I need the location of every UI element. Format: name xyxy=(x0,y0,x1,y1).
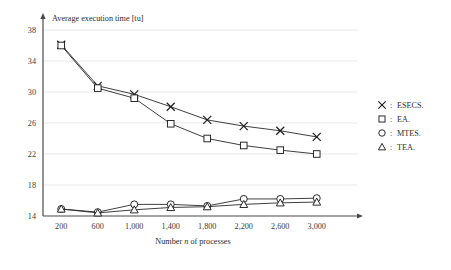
x-tick-label: 2,600 xyxy=(271,222,289,231)
x-tick-label: 1,400 xyxy=(162,222,180,231)
legend-label: ESECS. xyxy=(397,101,424,110)
square-marker-icon xyxy=(240,142,247,149)
y-tick-label: 14 xyxy=(28,212,36,221)
x-tick-label: 1,800 xyxy=(198,222,216,231)
square-marker-icon xyxy=(58,42,65,49)
square-marker-icon xyxy=(379,116,385,122)
legend-separator: : xyxy=(390,101,392,110)
legend-separator: : xyxy=(390,115,392,124)
y-tick-label: 26 xyxy=(28,119,36,128)
x-axis-title: Number n of processes xyxy=(155,237,230,246)
x-tick-label: 2,200 xyxy=(235,222,253,231)
y-tick-label: 38 xyxy=(28,26,36,35)
legend-item-mtes[interactable]: :MTES. xyxy=(379,129,421,138)
legend-label: EA. xyxy=(397,115,410,124)
axes xyxy=(40,13,363,219)
y-axis-title: Average execution time [tu] xyxy=(52,14,144,23)
x-tick-label: 1,000 xyxy=(125,222,143,231)
triangle-marker-icon xyxy=(378,143,385,149)
x-axis-ticks: 2006001,0001,4001,8002,2002,6003,000 xyxy=(55,222,326,231)
y-tick-label: 34 xyxy=(28,57,36,66)
square-marker-icon xyxy=(94,85,101,92)
x-marker-icon xyxy=(378,101,385,108)
legend-item-tea[interactable]: :TEA. xyxy=(378,143,415,152)
chart-container: 383430262218142006001,0001,4001,8002,200… xyxy=(0,0,451,270)
y-axis-arrow xyxy=(40,13,45,19)
square-marker-icon xyxy=(131,95,138,102)
square-marker-icon xyxy=(167,120,174,127)
gridlines xyxy=(43,30,357,185)
legend-item-ea[interactable]: :EA. xyxy=(379,115,410,124)
square-marker-icon xyxy=(313,151,320,158)
circle-marker-icon xyxy=(379,130,385,136)
x-marker-icon xyxy=(313,133,321,141)
line-chart: 383430262218142006001,0001,4001,8002,200… xyxy=(0,0,451,270)
series-tea xyxy=(57,198,320,216)
y-tick-label: 18 xyxy=(28,181,36,190)
x-tick-label: 3,000 xyxy=(308,222,326,231)
x-tick-label: 600 xyxy=(92,222,104,231)
legend-item-esecs[interactable]: :ESECS. xyxy=(378,101,423,110)
legend-label: TEA. xyxy=(397,143,415,152)
series-ea xyxy=(58,42,320,157)
series-line xyxy=(61,46,317,155)
y-tick-label: 22 xyxy=(28,150,36,159)
x-marker-icon xyxy=(167,103,175,111)
y-axis-ticks: 38343026221814 xyxy=(28,26,36,221)
legend-separator: : xyxy=(390,143,392,152)
legend: :ESECS.:EA.:MTES.:TEA. xyxy=(378,101,423,152)
legend-label: MTES. xyxy=(397,129,421,138)
y-tick-label: 30 xyxy=(28,88,36,97)
x-tick-label: 200 xyxy=(55,222,67,231)
square-marker-icon xyxy=(277,147,284,154)
x-axis-arrow xyxy=(357,213,363,218)
square-marker-icon xyxy=(204,135,211,142)
legend-separator: : xyxy=(390,129,392,138)
